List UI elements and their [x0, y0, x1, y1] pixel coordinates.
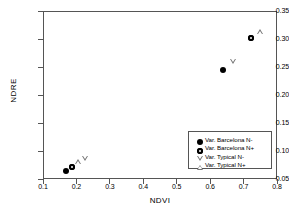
open-triangle-up-icon: [75, 159, 81, 164]
legend-label: Var. Barcelona N-: [205, 136, 253, 143]
y-tick-mark: [38, 67, 43, 68]
y-tick-mark: [38, 11, 43, 12]
legend-item: Var. Barcelona N-: [189, 135, 271, 143]
x-tick-label: 0.3: [95, 183, 125, 190]
x-tick-label: 0.4: [128, 183, 158, 190]
x-axis-title: NDVI: [43, 196, 277, 205]
y-tick-mark: [38, 123, 43, 124]
x-tick-label: 0.8: [262, 183, 289, 190]
legend-label: Var. Typical N+: [205, 161, 245, 168]
x-tick-label: 0.7: [229, 183, 259, 190]
y-tick-label: 0.15: [253, 119, 289, 126]
x-tick-label: 0.2: [61, 183, 91, 190]
open-triangle-down-icon: [82, 156, 88, 161]
filled-circle-icon: [220, 67, 226, 73]
legend-marker: [189, 144, 205, 152]
legend-marker: [189, 152, 205, 160]
y-tick-label: 0.25: [253, 63, 289, 70]
y-axis-title: NDRE: [9, 51, 18, 131]
open-triangle-down-icon: [230, 59, 236, 64]
legend-label: Var. Barcelona N+: [205, 144, 254, 151]
legend-item: Var. Typical N-: [189, 152, 271, 160]
legend-item: Var. Barcelona N+: [189, 144, 271, 152]
y-tick-label: 0.20: [253, 91, 289, 98]
y-tick-label: 0.05: [253, 175, 289, 182]
y-tick-mark: [38, 95, 43, 96]
chart-legend: Var. Barcelona N-Var. Barcelona N+Var. T…: [188, 131, 272, 169]
x-tick-label: 0.1: [28, 183, 58, 190]
open-triangle-up-icon: [197, 165, 203, 170]
y-tick-label: 0.35: [253, 7, 289, 14]
x-tick-label: 0.5: [162, 183, 192, 190]
open-triangle-up-icon: [257, 29, 263, 34]
y-tick-label: 0.30: [253, 35, 289, 42]
x-tick-label: 0.6: [195, 183, 225, 190]
legend-label: Var. Typical N-: [205, 153, 244, 160]
legend-marker: [189, 135, 205, 143]
scatter-chart-figure: 0.050.100.150.200.250.300.35 0.10.20.30.…: [0, 0, 289, 214]
legend-item: Var. Typical N+: [189, 161, 271, 169]
y-tick-mark: [38, 151, 43, 152]
y-tick-mark: [38, 39, 43, 40]
legend-marker: [189, 161, 205, 169]
